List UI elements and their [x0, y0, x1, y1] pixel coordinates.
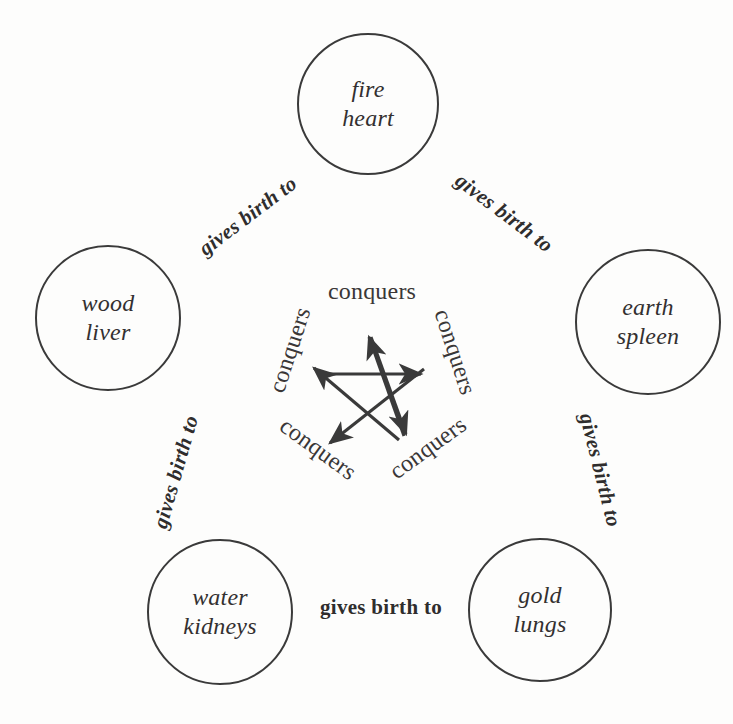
five-elements-diagram: fire heart wood liver earth spleen water… — [0, 0, 733, 724]
node-earth-organ: spleen — [617, 322, 680, 351]
arrow-right-to-bottom-left — [330, 369, 424, 443]
node-wood-liver[interactable]: wood liver — [35, 245, 181, 391]
node-gold-element: gold — [518, 581, 561, 610]
node-water-element: water — [192, 583, 248, 612]
node-earth-element: earth — [622, 293, 674, 322]
node-gold-organ: lungs — [513, 610, 566, 639]
node-wood-organ: liver — [86, 318, 131, 347]
node-fire-element: fire — [351, 75, 384, 104]
node-fire-organ: heart — [342, 104, 394, 133]
node-gold-lungs[interactable]: gold lungs — [468, 538, 612, 682]
node-fire-heart[interactable]: fire heart — [297, 33, 439, 175]
edge-label-water-to-gold: gives birth to — [320, 595, 442, 620]
node-earth-spleen[interactable]: earth spleen — [575, 249, 721, 395]
conquers-label-top: conquers — [328, 278, 416, 305]
node-wood-element: wood — [82, 289, 135, 318]
node-water-kidneys[interactable]: water kidneys — [147, 539, 293, 685]
arrow-bottom-right-to-top — [369, 337, 404, 436]
node-water-organ: kidneys — [183, 612, 256, 641]
